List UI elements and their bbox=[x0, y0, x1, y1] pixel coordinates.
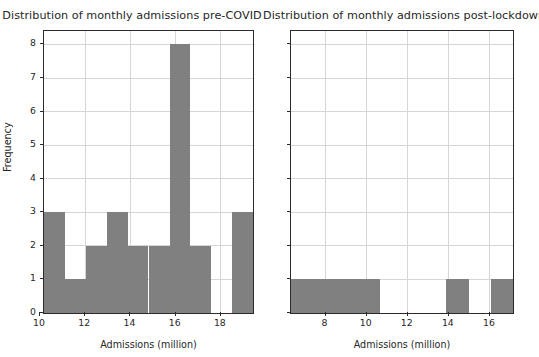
figure-canvas: Distribution of monthly admissions pre-C… bbox=[0, 0, 539, 357]
x-tick-label: 12 bbox=[401, 318, 413, 328]
histogram-bar bbox=[86, 246, 107, 313]
y-tick-label: 1 bbox=[15, 273, 36, 283]
gridline-vertical bbox=[448, 31, 449, 313]
x-tick-mark bbox=[448, 312, 449, 316]
y-tick-mark bbox=[287, 43, 291, 44]
histogram-bar bbox=[491, 279, 513, 313]
histogram-bar bbox=[358, 279, 380, 313]
y-tick-mark bbox=[287, 111, 291, 112]
histogram-bar bbox=[149, 246, 170, 313]
y-tick-label: 0 bbox=[15, 307, 36, 317]
subplot-post-lockdown: Distribution of monthly admissions post-… bbox=[265, 0, 539, 357]
y-tick-mark bbox=[287, 178, 291, 179]
x-tick-label: 10 bbox=[360, 318, 372, 328]
gridline-vertical bbox=[325, 31, 326, 313]
x-tick-mark bbox=[325, 312, 326, 316]
histogram-bar bbox=[335, 279, 357, 313]
histogram-bar bbox=[291, 279, 313, 313]
gridline-vertical bbox=[220, 31, 221, 313]
y-tick-label: 8 bbox=[15, 38, 36, 48]
x-tick-mark bbox=[129, 312, 130, 316]
x-tick-label: 16 bbox=[483, 318, 495, 328]
x-tick-label: 16 bbox=[169, 318, 181, 328]
y-tick-mark bbox=[287, 144, 291, 145]
x-tick-mark bbox=[489, 312, 490, 316]
y-tick-mark bbox=[40, 211, 44, 212]
y-tick-mark bbox=[287, 312, 291, 313]
gridline-horizontal bbox=[44, 111, 253, 112]
y-tick-label: 2 bbox=[15, 240, 36, 250]
x-tick-mark bbox=[220, 312, 221, 316]
y-tick-label: 4 bbox=[15, 173, 36, 183]
x-tick-mark bbox=[407, 312, 408, 316]
plot-area-left bbox=[43, 30, 254, 314]
y-tick-mark bbox=[40, 43, 44, 44]
y-tick-mark bbox=[40, 278, 44, 279]
y-tick-mark bbox=[287, 278, 291, 279]
y-tick-label: 6 bbox=[15, 106, 36, 116]
y-tick-label: 3 bbox=[15, 206, 36, 216]
subplot-pre-covid: Distribution of monthly admissions pre-C… bbox=[0, 0, 270, 357]
x-tick-label: 18 bbox=[214, 318, 226, 328]
x-tick-mark bbox=[175, 312, 176, 316]
gridline-vertical bbox=[489, 31, 490, 313]
histogram-bar bbox=[44, 212, 65, 313]
x-axis-label-left: Admissions (million) bbox=[43, 339, 254, 350]
histogram-bar bbox=[170, 44, 191, 313]
y-tick-mark bbox=[40, 312, 44, 313]
x-tick-label: 12 bbox=[78, 318, 90, 328]
histogram-bar bbox=[313, 279, 335, 313]
x-tick-label: 8 bbox=[322, 318, 328, 328]
y-tick-mark bbox=[40, 245, 44, 246]
gridline-horizontal bbox=[44, 212, 253, 213]
gridline-horizontal bbox=[44, 145, 253, 146]
y-tick-label: 7 bbox=[15, 72, 36, 82]
gridline-horizontal bbox=[44, 44, 253, 45]
y-axis-label: Frequency bbox=[2, 122, 13, 172]
x-tick-mark bbox=[366, 312, 367, 316]
x-tick-label: 14 bbox=[442, 318, 454, 328]
histogram-bar bbox=[128, 246, 149, 313]
gridline-vertical bbox=[366, 31, 367, 313]
gridline-horizontal bbox=[44, 78, 253, 79]
chart-title-right: Distribution of monthly admissions post-… bbox=[263, 9, 537, 22]
gridline-vertical bbox=[407, 31, 408, 313]
x-tick-mark bbox=[84, 312, 85, 316]
x-tick-label: 14 bbox=[123, 318, 135, 328]
gridline-horizontal bbox=[44, 178, 253, 179]
plot-area-right bbox=[290, 30, 514, 314]
histogram-bar bbox=[190, 246, 211, 313]
histogram-bar bbox=[107, 212, 128, 313]
y-tick-mark bbox=[287, 77, 291, 78]
y-tick-mark bbox=[40, 144, 44, 145]
chart-title-left: Distribution of monthly admissions pre-C… bbox=[0, 9, 267, 22]
histogram-bar bbox=[65, 279, 86, 313]
y-tick-mark bbox=[40, 111, 44, 112]
x-axis-label-right: Admissions (million) bbox=[290, 339, 514, 350]
y-tick-mark bbox=[40, 77, 44, 78]
histogram-bar bbox=[232, 212, 253, 313]
y-tick-mark bbox=[40, 178, 44, 179]
histogram-bar bbox=[446, 279, 468, 313]
y-tick-mark bbox=[287, 211, 291, 212]
y-tick-label: 5 bbox=[15, 139, 36, 149]
y-tick-mark bbox=[287, 245, 291, 246]
x-tick-label: 10 bbox=[33, 318, 45, 328]
